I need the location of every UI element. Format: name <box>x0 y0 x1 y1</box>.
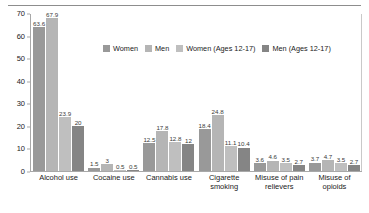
legend-swatch-icon <box>262 45 269 52</box>
bar-container: 3.5 <box>335 14 347 171</box>
bar-group: 63.667.923.920 <box>31 14 86 171</box>
legend-label: Women (Ages 12-17) <box>186 44 255 53</box>
y-axis-tick-mark <box>27 36 30 37</box>
bar[interactable] <box>254 163 266 171</box>
bar-group: 12.517.812.812 <box>141 14 196 171</box>
bar[interactable] <box>114 170 126 171</box>
bar-value-label: 12 <box>185 138 192 144</box>
bar[interactable] <box>143 143 155 171</box>
y-axis-tick-label: 20 <box>17 123 25 131</box>
bar-value-label: 20 <box>75 120 82 126</box>
bar-value-label: 12.8 <box>169 136 181 142</box>
bar-container: 3 <box>101 14 113 171</box>
plot-area: 010203040506070 63.667.923.9201.530.50.5… <box>30 14 362 172</box>
bar[interactable] <box>182 144 194 171</box>
bar-container: 12.5 <box>143 14 155 171</box>
y-axis-tick-label: 30 <box>17 101 25 109</box>
bar-container: 2.7 <box>348 14 360 171</box>
bar-container: 17.8 <box>156 14 168 171</box>
bar-value-label: 18.4 <box>199 123 211 129</box>
bar-value-label: 3.5 <box>281 157 290 163</box>
bar[interactable] <box>88 168 100 171</box>
bar-value-label: 4.7 <box>324 154 333 160</box>
x-axis-category-label: Misuse of pain relievers <box>252 174 307 191</box>
bar-container: 18.4 <box>199 14 211 171</box>
bar[interactable] <box>293 165 305 171</box>
bar-container: 4.7 <box>322 14 334 171</box>
x-axis-category-label: Misuse of opioids <box>307 174 362 191</box>
bar-group: 18.424.811.110.4 <box>197 14 252 171</box>
bar-value-label: 4.6 <box>268 154 277 160</box>
y-axis-tick-label: 40 <box>17 78 25 86</box>
legend-label: Men (Ages 12-17) <box>272 44 330 53</box>
bar[interactable] <box>156 131 168 171</box>
legend-swatch-icon <box>103 45 110 52</box>
bar[interactable] <box>33 27 45 171</box>
bar[interactable] <box>238 148 250 171</box>
bar-value-label: 10.4 <box>238 141 250 147</box>
bar-group: 3.64.63.52.7 <box>252 14 307 171</box>
bar-value-label: 23.9 <box>59 111 71 117</box>
y-axis-tick-mark <box>27 126 30 127</box>
bar[interactable] <box>127 170 139 171</box>
bar-group: 3.74.73.52.7 <box>307 14 362 171</box>
bar[interactable] <box>199 129 211 171</box>
bar-value-label: 3.5 <box>337 157 346 163</box>
y-axis-tick-mark <box>27 14 30 15</box>
legend-label: Men <box>155 44 169 53</box>
y-axis-tick-mark <box>27 104 30 105</box>
bar-value-label: 12.5 <box>143 137 155 143</box>
legend-swatch-icon <box>176 45 183 52</box>
bar[interactable] <box>280 163 292 171</box>
bar-container: 3.5 <box>280 14 292 171</box>
bar[interactable] <box>225 146 237 171</box>
bar[interactable] <box>59 117 71 171</box>
bar[interactable] <box>212 115 224 171</box>
bar-container: 3.6 <box>254 14 266 171</box>
legend-item[interactable]: Women <box>103 44 138 53</box>
bar[interactable] <box>46 18 58 171</box>
bar[interactable] <box>335 163 347 171</box>
bar[interactable] <box>101 164 113 171</box>
bar-container: 4.6 <box>267 14 279 171</box>
legend-swatch-icon <box>145 45 152 52</box>
bar-container: 2.7 <box>293 14 305 171</box>
x-axis-category-label: Cannabis use <box>141 174 196 191</box>
bar[interactable] <box>309 163 321 171</box>
x-axis-spine <box>30 171 362 172</box>
bar[interactable] <box>72 126 84 171</box>
bar-value-label: 2.7 <box>294 159 303 165</box>
y-axis-tick-mark <box>27 149 30 150</box>
x-axis-category-label: Cocaine use <box>86 174 141 191</box>
bar-value-label: 3 <box>106 158 109 164</box>
bar[interactable] <box>348 165 360 171</box>
bar-container: 10.4 <box>238 14 250 171</box>
x-axis-category-label: Cigarette smoking <box>197 174 252 191</box>
y-axis-tick-label: 50 <box>17 55 25 63</box>
bar-container: 12 <box>182 14 194 171</box>
bar-value-label: 17.8 <box>156 125 168 131</box>
x-axis-category-labels: Alcohol useCocaine useCannabis useCigare… <box>31 174 362 191</box>
top-rule <box>8 5 361 6</box>
y-axis-tick-label: 60 <box>17 33 25 41</box>
bar-container: 24.8 <box>212 14 224 171</box>
bar-group: 1.530.50.5 <box>86 14 141 171</box>
bar-value-label: 0.5 <box>116 164 125 170</box>
y-axis-tick-mark <box>27 59 30 60</box>
bar-container: 20 <box>72 14 84 171</box>
bar-value-label: 67.9 <box>46 12 58 18</box>
legend-item[interactable]: Men <box>145 44 169 53</box>
bar-container: 0.5 <box>127 14 139 171</box>
caption-sliver: ▬▬▬ <box>6 209 27 213</box>
bar[interactable] <box>267 161 279 171</box>
legend-item[interactable]: Men (Ages 12-17) <box>262 44 330 53</box>
legend-label: Women <box>113 44 138 53</box>
bar-value-label: 2.7 <box>350 159 359 165</box>
bar-value-label: 1.5 <box>90 161 99 167</box>
bar-value-label: 3.7 <box>311 156 320 162</box>
x-axis-category-label: Alcohol use <box>31 174 86 191</box>
bar[interactable] <box>322 160 334 171</box>
y-axis-tick-mark <box>27 81 30 82</box>
bar[interactable] <box>169 142 181 171</box>
legend-item[interactable]: Women (Ages 12-17) <box>176 44 255 53</box>
